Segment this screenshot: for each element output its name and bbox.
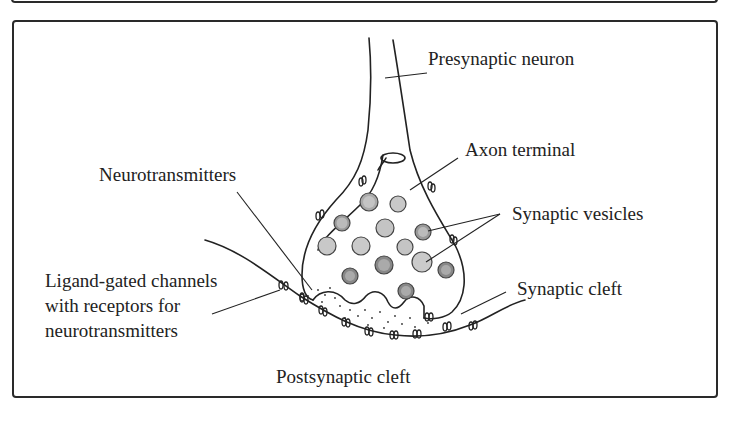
axon-cross-section bbox=[381, 153, 405, 163]
label-ligand-line-2: with receptors for bbox=[45, 293, 218, 318]
label-neurotransmitters: Neurotransmitters bbox=[99, 164, 236, 186]
axon-right bbox=[393, 40, 464, 319]
label-ligand-line-3: neurotransmitters bbox=[45, 318, 218, 343]
label-presynaptic-neuron: Presynaptic neuron bbox=[428, 48, 574, 70]
label-axon-terminal: Axon terminal bbox=[465, 139, 575, 161]
label-ligand-line-1: Ligand-gated channels bbox=[45, 268, 218, 293]
axon-left-outer bbox=[302, 38, 371, 300]
leader-ligand-gated bbox=[212, 290, 280, 314]
leader-vesicle-2 bbox=[426, 214, 500, 262]
leader-neurotransmitters bbox=[237, 192, 312, 290]
label-synaptic-vesicles: Synaptic vesicles bbox=[512, 203, 643, 225]
label-synaptic-cleft: Synaptic cleft bbox=[517, 278, 622, 300]
label-ligand-gated-channels: Ligand-gated channels with receptors for… bbox=[45, 268, 218, 343]
leader-presynaptic bbox=[385, 73, 427, 78]
label-postsynaptic-cleft: Postsynaptic cleft bbox=[276, 366, 411, 388]
